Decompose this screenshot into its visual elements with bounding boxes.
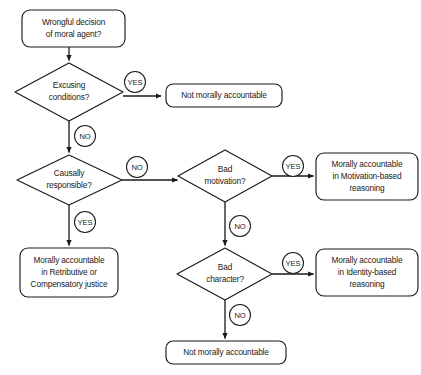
node-identity-based-reasoning: Morally accountable in Identity-based re… — [316, 249, 418, 296]
bad-motivation-label-line2: motivation? — [205, 176, 246, 186]
causally-yes-label: YES — [78, 218, 93, 227]
node-motivation-based-reasoning: Morally accountable in Motivation-based … — [316, 153, 418, 200]
badge-character-no: NO — [230, 305, 251, 326]
causally-label-line1: Causally — [54, 168, 86, 178]
identity-based-label-line3: reasoning — [349, 279, 385, 289]
badge-character-yes: YES — [283, 253, 304, 274]
retributive-label-line2: in Retributive or — [41, 267, 97, 277]
start-label-line1: Wrongful decision — [42, 17, 106, 27]
node-start: Wrongful decision of moral agent? — [22, 10, 125, 47]
excusing-yes-label: YES — [128, 78, 143, 87]
badge-excusing-no: NO — [75, 126, 96, 147]
node-not-accountable-top: Not morally accountable — [166, 84, 282, 107]
not-accountable-bottom-label: Not morally accountable — [183, 347, 269, 357]
node-bad-motivation: Bad motivation? — [178, 150, 272, 202]
identity-based-label-line1: Morally accountable — [332, 255, 403, 265]
badge-causally-yes: YES — [75, 212, 96, 233]
node-retributive-justice: Morally accountable in Retributive or Co… — [20, 248, 118, 297]
character-yes-label: YES — [286, 259, 301, 268]
excusing-label-line1: Excusing — [53, 80, 86, 90]
badge-excusing-yes: YES — [125, 72, 146, 93]
character-no-label: NO — [234, 311, 245, 320]
start-label-line2: of moral agent? — [46, 29, 102, 39]
bad-character-label-line2: character? — [206, 274, 244, 284]
bad-motivation-label-line1: Bad — [218, 164, 233, 174]
node-excusing-conditions: Excusing conditions? — [15, 63, 123, 121]
motivation-based-label-line3: reasoning — [349, 183, 385, 193]
identity-based-label-line2: in Identity-based — [338, 267, 397, 277]
badge-motivation-yes: YES — [283, 156, 304, 177]
badge-causally-no: NO — [127, 157, 148, 178]
motivation-no-label: NO — [234, 222, 245, 231]
retributive-label-line3: Compensatory justice — [31, 279, 108, 289]
node-causally-responsible: Causally responsible? — [17, 155, 122, 205]
motivation-based-label-line2: in Motivation-based — [332, 171, 402, 181]
flowchart-canvas: Wrongful decision of moral agent? Excusi… — [0, 0, 421, 375]
flowchart-svg: Wrongful decision of moral agent? Excusi… — [0, 0, 421, 375]
node-bad-character: Bad character? — [177, 248, 272, 300]
excusing-no-label: NO — [79, 132, 90, 141]
motivation-yes-label: YES — [286, 162, 301, 171]
bad-character-label-line1: Bad — [218, 262, 233, 272]
motivation-based-label-line1: Morally accountable — [332, 159, 403, 169]
excusing-label-line2: conditions? — [49, 92, 90, 102]
badge-motivation-no: NO — [230, 216, 251, 237]
causally-label-line2: responsible? — [46, 180, 92, 190]
retributive-label-line1: Morally accountable — [34, 255, 105, 265]
not-accountable-top-label: Not morally accountable — [181, 90, 267, 100]
causally-no-label: NO — [131, 163, 142, 172]
node-not-accountable-bottom: Not morally accountable — [166, 341, 286, 364]
